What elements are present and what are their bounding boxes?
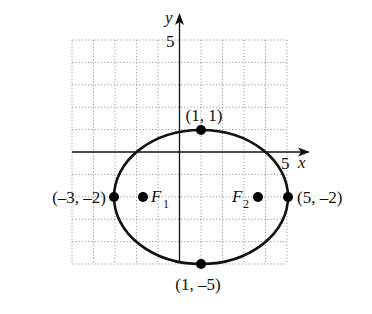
x-axis-label: x [297,153,306,172]
svg-text:F: F [150,187,162,206]
vertex-right-point [283,192,293,202]
svg-text:2: 2 [243,197,249,211]
label-left: (–3, –2) [52,188,106,207]
focus-f2-point [253,192,263,202]
vertex-top-point [196,125,206,135]
y-axis [175,13,184,262]
focus-f2-label: F 2 [231,187,249,211]
vertex-left-point [109,192,119,202]
vertex-bottom-point [196,259,206,269]
label-bottom: (1, –5) [175,275,220,294]
svg-text:1: 1 [163,197,169,211]
ellipse-diagram: y 5 5 x (1, 1) (1, –5) (–3, –2) (5, –2) … [0,0,372,314]
y-tick-label: 5 [166,32,175,51]
y-axis-label: y [163,8,173,27]
focus-f1-label: F 1 [150,187,169,211]
label-right: (5, –2) [297,188,342,207]
x-tick-label: 5 [281,154,290,173]
x-axis [72,148,310,157]
svg-text:F: F [231,187,243,206]
label-top: (1, 1) [186,106,223,125]
focus-f1-point [138,192,148,202]
